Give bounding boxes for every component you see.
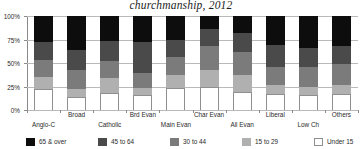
- bar-segment[interactable]: [67, 97, 86, 110]
- bar-segment[interactable]: [166, 40, 185, 57]
- bar-segment[interactable]: [100, 61, 119, 78]
- bar-group[interactable]: [332, 16, 351, 110]
- bar-segment[interactable]: [200, 46, 219, 70]
- bar-segment[interactable]: [166, 57, 185, 75]
- bar-group[interactable]: [67, 16, 86, 110]
- bar-segment[interactable]: [34, 42, 53, 60]
- x-tick-mark: [60, 110, 61, 113]
- bar-segment[interactable]: [100, 16, 119, 41]
- chart-title: churchmanship, 2012: [0, 0, 362, 11]
- bar-segment[interactable]: [266, 16, 285, 45]
- bar-segment[interactable]: [233, 16, 252, 33]
- bar-segment[interactable]: [200, 87, 219, 111]
- legend-label: 45 to 64: [111, 138, 134, 145]
- bar-stack: [233, 16, 252, 110]
- bar-group[interactable]: [133, 16, 152, 110]
- bar-segment[interactable]: [100, 41, 119, 61]
- bar-segment[interactable]: [34, 89, 53, 110]
- x-tick-label: Main Evan: [161, 121, 191, 128]
- legend-label: 15 to 29: [255, 138, 278, 145]
- bar-stack: [299, 16, 318, 110]
- y-tick-label: 75%: [0, 37, 20, 44]
- bar-segment[interactable]: [266, 85, 285, 94]
- bar-segment[interactable]: [34, 16, 53, 42]
- bar-segment[interactable]: [332, 94, 351, 110]
- x-tick-label: Broad: [68, 111, 85, 118]
- bar-group[interactable]: [233, 16, 252, 110]
- bar-segment[interactable]: [200, 29, 219, 46]
- bar-segment[interactable]: [133, 42, 152, 73]
- x-tick-mark: [259, 110, 260, 113]
- bar-stack: [200, 16, 219, 110]
- bar-segment[interactable]: [332, 16, 351, 46]
- bar-group[interactable]: [166, 16, 185, 110]
- legend-swatch: [26, 138, 35, 146]
- x-tick-label: Brd Evan: [130, 111, 156, 118]
- y-tick-mark: [24, 87, 27, 88]
- legend-swatch: [314, 138, 323, 146]
- bar-segment[interactable]: [299, 16, 318, 48]
- bar-segment[interactable]: [299, 67, 318, 87]
- bar-group[interactable]: [200, 16, 219, 110]
- legend-item[interactable]: 30 to 44: [170, 136, 206, 147]
- y-tick-label: 25%: [0, 84, 20, 91]
- legend-item[interactable]: 65 & over: [26, 136, 66, 147]
- x-tick-mark: [226, 110, 227, 113]
- bar-segment[interactable]: [299, 48, 318, 67]
- bar-segment[interactable]: [34, 77, 53, 89]
- legend-item[interactable]: 45 to 64: [98, 136, 134, 147]
- bar-segment[interactable]: [233, 92, 252, 110]
- bar-segment[interactable]: [166, 88, 185, 110]
- y-tick-mark: [24, 63, 27, 64]
- x-tick-label: Others: [332, 111, 351, 118]
- x-tick-label: Liberal: [266, 111, 285, 118]
- bar-segment[interactable]: [67, 89, 86, 97]
- bar-segment[interactable]: [133, 73, 152, 88]
- bar-segment[interactable]: [332, 46, 351, 64]
- bar-segment[interactable]: [67, 50, 86, 70]
- bar-segment[interactable]: [266, 67, 285, 85]
- bar-segment[interactable]: [200, 16, 219, 29]
- y-tick-label: 100%: [0, 13, 20, 20]
- legend-swatch: [98, 138, 107, 146]
- bar-segment[interactable]: [133, 16, 152, 42]
- bar-segment[interactable]: [67, 70, 86, 90]
- x-tick-mark: [27, 110, 28, 113]
- bar-segment[interactable]: [100, 78, 119, 93]
- bar-segment[interactable]: [233, 33, 252, 52]
- legend-item[interactable]: Under 15: [314, 136, 353, 147]
- bar-segment[interactable]: [34, 60, 53, 77]
- bar-segment[interactable]: [133, 95, 152, 110]
- bar-segment[interactable]: [332, 85, 351, 94]
- bar-segment[interactable]: [266, 45, 285, 67]
- legend-item[interactable]: 15 to 29: [242, 136, 278, 147]
- x-tick-mark: [358, 110, 359, 113]
- bar-group[interactable]: [100, 16, 119, 110]
- bar-group[interactable]: [299, 16, 318, 110]
- bar-segment[interactable]: [166, 75, 185, 88]
- bar-segment[interactable]: [299, 87, 318, 95]
- bar-stack: [332, 16, 351, 110]
- bar-segment[interactable]: [266, 94, 285, 110]
- legend-swatch: [242, 138, 251, 146]
- bar-segment[interactable]: [332, 64, 351, 85]
- bar-segment[interactable]: [200, 70, 219, 87]
- bar-segment[interactable]: [100, 93, 119, 110]
- x-tick-mark: [93, 110, 94, 113]
- y-tick-label: 0%: [0, 107, 20, 114]
- bar-segment[interactable]: [233, 75, 252, 92]
- y-tick-label: 50%: [0, 60, 20, 67]
- bar-segment[interactable]: [133, 88, 152, 95]
- y-tick-mark: [24, 16, 27, 17]
- bar-group[interactable]: [266, 16, 285, 110]
- bar-segment[interactable]: [299, 95, 318, 110]
- x-tick-mark: [325, 110, 326, 113]
- bar-segment[interactable]: [67, 16, 86, 50]
- bar-segment[interactable]: [233, 52, 252, 76]
- x-tick-mark: [292, 110, 293, 113]
- bar-segment[interactable]: [166, 16, 185, 40]
- bar-group[interactable]: [34, 16, 53, 110]
- bar-stack: [166, 16, 185, 110]
- x-tick-label: Char Evan: [194, 111, 224, 118]
- bar-stack: [133, 16, 152, 110]
